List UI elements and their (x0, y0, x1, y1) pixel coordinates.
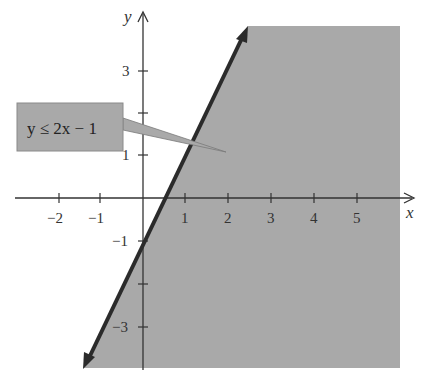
boundary-arrow-top-icon (236, 26, 248, 43)
svg-text:1: 1 (181, 210, 189, 226)
y-axis-label: y (122, 7, 132, 26)
svg-text:−1: −1 (112, 233, 128, 249)
svg-text:−2: −2 (47, 210, 63, 226)
svg-text:3: 3 (122, 63, 130, 79)
svg-text:−1: −1 (88, 210, 104, 226)
x-axis-label: x (405, 203, 414, 222)
svg-text:−3: −3 (112, 319, 128, 335)
svg-text:2: 2 (224, 210, 232, 226)
svg-text:3: 3 (267, 210, 275, 226)
svg-text:4: 4 (310, 210, 318, 226)
inequality-graph: x y −2 −1 1 2 3 4 5 3 1 −1 −3 (0, 0, 426, 388)
shaded-solution-region (83, 26, 400, 368)
svg-text:5: 5 (353, 210, 361, 226)
callout-inequality-label: y ≤ 2x − 1 (27, 119, 97, 138)
